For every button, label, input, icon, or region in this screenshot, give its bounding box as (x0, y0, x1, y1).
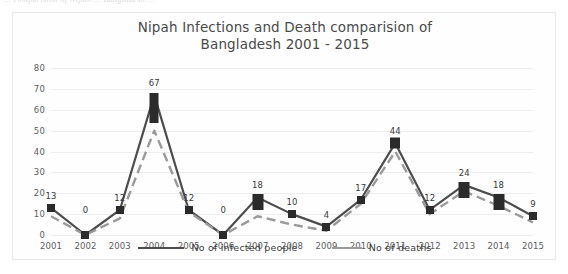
data-label-2009: 4 (324, 210, 330, 220)
plot-area: 13012671201810417441224189 (51, 68, 533, 235)
y-axis-tick-10: 10 (34, 209, 45, 219)
data-point-marker (185, 206, 193, 214)
y-axis-tick-30: 30 (34, 167, 45, 177)
data-label-2012: 12 (424, 193, 435, 203)
data-label-2002: 0 (83, 205, 89, 215)
data-point-marker (459, 182, 470, 198)
legend-line-icon-infected (138, 247, 184, 249)
data-label-2007: 18 (252, 180, 263, 190)
legend-item-infected[interactable]: No of infected people (138, 242, 297, 253)
data-label-2013: 24 (459, 168, 470, 178)
y-axis-tick-50: 50 (34, 126, 45, 136)
data-point-marker (493, 194, 504, 210)
data-label-2010: 17 (355, 183, 366, 193)
data-point-marker (116, 206, 124, 214)
y-axis-tick-40: 40 (34, 147, 45, 157)
data-label-2005: 12 (183, 193, 194, 203)
data-label-2006: 0 (220, 205, 226, 215)
data-point-marker (322, 223, 330, 231)
data-point-marker (81, 231, 89, 239)
data-label-2008: 10 (286, 197, 297, 207)
data-point-marker (529, 212, 537, 220)
data-label-2004: 67 (149, 78, 160, 88)
data-point-marker (47, 204, 55, 212)
gridline (51, 235, 533, 236)
y-axis-labels: 80706050403020100 (13, 68, 49, 235)
data-point-marker (357, 196, 365, 204)
data-point-marker (390, 138, 400, 149)
chart-title-line-2: Bangladesh 2001 - 2015 (13, 36, 557, 53)
data-label-2015: 9 (530, 199, 536, 209)
legend-label-deaths: No of deaths (369, 242, 432, 253)
chart-container: Nipah Infections and Death comparision o… (12, 12, 556, 260)
data-point-marker (219, 231, 227, 239)
legend-item-deaths[interactable]: No of deaths (332, 242, 432, 253)
data-label-2014: 18 (493, 180, 504, 190)
data-label-2001: 13 (45, 191, 56, 201)
scan-artifact-text: ... comparision of Nipah ... Bangladesh … (4, 0, 155, 4)
y-axis-tick-20: 20 (34, 188, 45, 198)
y-axis-tick-0: 0 (39, 230, 45, 240)
chart-title: Nipah Infections and Death comparision o… (13, 19, 557, 53)
scan-edge-artifact: ... comparision of Nipah ... Bangladesh … (0, 0, 568, 11)
legend-label-infected: No of infected people (191, 242, 297, 253)
y-axis-tick-60: 60 (34, 105, 45, 115)
data-point-marker (150, 93, 159, 123)
data-point-marker (252, 194, 263, 210)
data-label-2003: 12 (114, 193, 125, 203)
data-point-marker (426, 206, 434, 214)
chart-title-line-1: Nipah Infections and Death comparision o… (13, 19, 557, 36)
y-axis-tick-70: 70 (34, 84, 45, 94)
data-point-marker (288, 210, 296, 218)
legend-line-icon-deaths (332, 247, 362, 249)
chart-legend: No of infected people No of deaths (13, 242, 557, 253)
y-axis-tick-80: 80 (34, 63, 45, 73)
data-label-2011: 44 (390, 126, 401, 136)
